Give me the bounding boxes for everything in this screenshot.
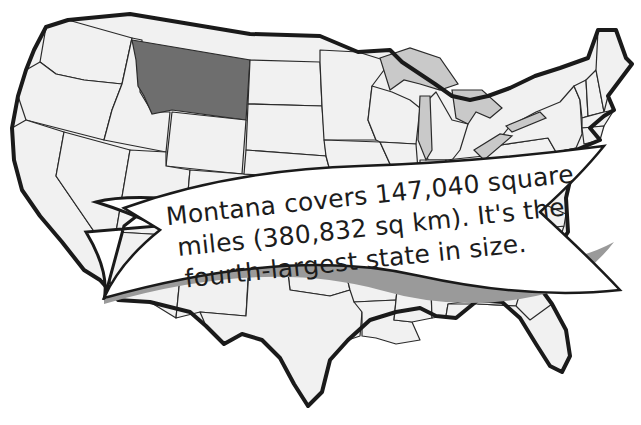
state-wyoming (166, 112, 246, 174)
us-map: Montana covers 147,040 square miles (380… (0, 0, 641, 425)
state-south-dakota (246, 104, 326, 156)
state-north-dakota (248, 60, 322, 106)
